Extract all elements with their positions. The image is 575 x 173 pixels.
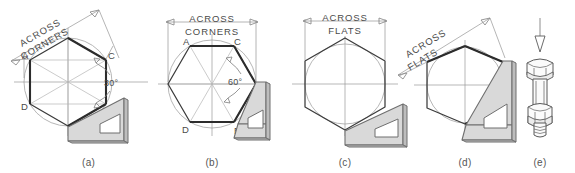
panel-b-label-D: D: [182, 124, 189, 135]
panel-b-label-C: C: [234, 36, 241, 47]
panel-d-dimension: ACROSS FLATS: [398, 18, 505, 79]
panel-c: ACROSS FLATS (c): [292, 12, 407, 168]
panel-a-label-C: C: [108, 50, 115, 61]
panel-a-label-D: D: [21, 101, 28, 112]
panel-e: (e): [527, 18, 553, 168]
panel-b-label-A: A: [183, 36, 190, 47]
panel-b-dim-label-line2: CORNERS: [185, 26, 239, 37]
figure-canvas: ACROSS CORNERS 30° A C D B (a): [0, 0, 575, 173]
panel-c-set-square: [345, 104, 407, 147]
panel-a-angle-label: 30°: [104, 78, 119, 88]
panel-d-caption: (d): [458, 157, 471, 168]
technical-drawing-figure: ACROSS CORNERS 30° A C D B (a): [0, 0, 575, 173]
panel-b-angle-label: 60°: [228, 77, 243, 87]
panel-e-caption: (e): [533, 157, 546, 168]
panel-c-dim-label-line1: ACROSS: [322, 12, 368, 23]
panel-b: ACROSS CORNERS 60° A C D B (b): [158, 13, 270, 168]
panel-e-threaded-end: [534, 123, 546, 137]
panel-c-caption: (c): [339, 157, 352, 168]
panel-a: ACROSS CORNERS 30° A C D B (a): [11, 10, 148, 168]
panel-b-caption: (b): [205, 157, 218, 168]
panel-b-angle-marker: 60°: [224, 57, 243, 103]
panel-d: ACROSS FLATS (d): [398, 18, 516, 168]
panel-b-dim-label-line1: ACROSS: [189, 13, 235, 24]
panel-c-dim-label-line2: FLATS: [328, 25, 361, 36]
panel-e-view-arrow: [535, 18, 545, 52]
panel-a-label-A: A: [22, 50, 29, 61]
panel-e-bolt-head: [527, 59, 553, 82]
panel-d-set-square: [462, 61, 516, 142]
panel-a-caption: (a): [82, 157, 95, 168]
panel-a-dimension: ACROSS CORNERS: [11, 10, 119, 78]
